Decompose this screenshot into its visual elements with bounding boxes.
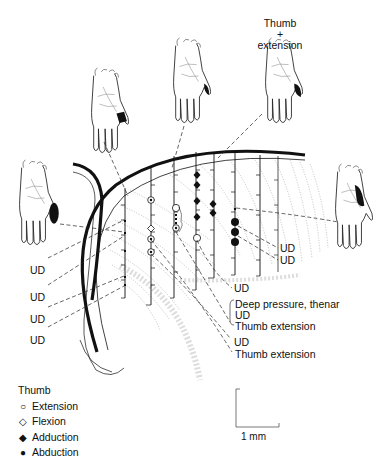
- hand-drawing-1: [92, 68, 129, 153]
- legend-label: Extension: [32, 399, 78, 415]
- hand-drawing-2: [174, 38, 211, 123]
- leader-lines: [48, 114, 338, 352]
- left-label-ud-3: UD: [30, 313, 45, 325]
- right-label-ud-5: UD: [234, 336, 249, 348]
- right-label-ud-1: UD: [280, 242, 295, 254]
- open-circle-icon: ○: [18, 399, 28, 415]
- left-label-ud-2: UD: [30, 291, 45, 303]
- legend-label: Adduction: [32, 430, 79, 446]
- legend-item-adduction: ◆ Adduction: [18, 430, 79, 446]
- filled-diamond-icon: ◆: [18, 430, 28, 446]
- left-label-ud-4: UD: [30, 334, 45, 346]
- hand-drawing-5: [336, 164, 373, 249]
- scale-bar: [236, 389, 279, 427]
- legend: Thumb ○ Extension ◇ Flexion ◆ Adduction …: [18, 383, 79, 461]
- scale-bar-label: 1 mm: [241, 431, 266, 442]
- legend-item-abduction: ● Abduction: [18, 445, 79, 461]
- legend-title: Thumb: [18, 383, 79, 399]
- right-label-ud-2: UD: [280, 254, 295, 266]
- right-label-thumb-extension-2: Thumb extension: [235, 348, 316, 360]
- legend-label: Flexion: [32, 414, 66, 430]
- legend-item-flexion: ◇ Flexion: [18, 414, 79, 430]
- recording-sites: [124, 171, 239, 286]
- right-label-deep-pressure: Deep pressure, thenar: [235, 298, 339, 310]
- top-label-line3: extension: [250, 40, 310, 51]
- right-label-thumb-extension-1: Thumb extension: [235, 320, 316, 332]
- open-diamond-icon: ◇: [18, 414, 28, 430]
- left-label-ud-1: UD: [30, 264, 45, 276]
- top-label: Thumb + extension: [250, 18, 310, 51]
- legend-label: Abduction: [32, 445, 79, 461]
- right-label-ud-3: UD: [234, 282, 249, 294]
- hand-drawing-4: [20, 160, 59, 245]
- filled-circle-icon: ●: [18, 445, 28, 461]
- legend-item-extension: ○ Extension: [18, 399, 79, 415]
